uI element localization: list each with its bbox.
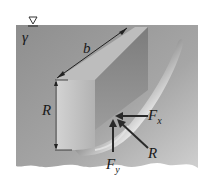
resultant-label: R [148,146,157,161]
radius-label: R [42,103,51,118]
front-wall [55,80,95,150]
specific-weight-label: γ [22,30,28,45]
fx-label: Fx [148,108,162,126]
width-b-label: b [83,41,91,56]
curved-gate-diagram: γ b R Fx Fy R [0,0,212,177]
free-surface-marker [28,17,38,26]
fy-label: Fy [106,157,120,175]
